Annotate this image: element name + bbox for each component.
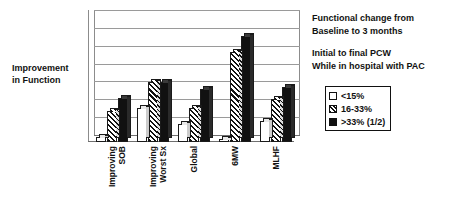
legend-item: <15% (329, 89, 385, 102)
white-square-icon (329, 92, 337, 100)
hatched-square-icon (329, 105, 337, 113)
annotation-1-line-2: Baseline to 3 months (312, 25, 451, 38)
plot-area (88, 10, 303, 145)
legend-item-label: 16-33% (341, 104, 372, 114)
bar-side-face (127, 96, 131, 138)
bar (260, 121, 270, 142)
bar (230, 52, 240, 142)
x-axis-label-line: Worst Sx (159, 146, 169, 204)
legend-item: 16-33% (329, 102, 385, 115)
bar-side-face (269, 119, 273, 138)
bars-layer (88, 10, 303, 145)
bar-side-face (239, 50, 243, 138)
annotation-2-line-1: Initial to final PCW (312, 47, 451, 60)
black-square-icon (329, 118, 337, 126)
bar-side-face (291, 85, 295, 138)
chart-legend: <15%16-33%>33% (1/2) (325, 86, 391, 131)
bar (219, 139, 229, 142)
x-axis-label-line: MLHF (272, 146, 282, 204)
bar-side-face (250, 34, 254, 138)
x-axis-label-line: Global (190, 146, 200, 204)
legend-item-label: >33% (1/2) (341, 117, 385, 127)
bar-group (178, 13, 211, 142)
bar-side-face (168, 80, 172, 138)
bar-side-face (228, 136, 232, 138)
bar-side-face (105, 135, 109, 138)
y-axis-title: Improvement in Function (12, 62, 88, 86)
x-axis-label-4: 6MW (231, 146, 241, 204)
bar-side-face (209, 87, 213, 138)
bar-side-face (187, 122, 191, 138)
y-axis-title-line2: in Function (12, 74, 88, 86)
legend-item: >33% (1/2) (329, 115, 385, 128)
bar (178, 124, 188, 142)
annotation-1-line-1: Functional change from (312, 12, 451, 25)
chart-figure: Improvement in Function ImprovingSOBImpr… (0, 0, 451, 207)
legend-item-label: <15% (341, 91, 364, 101)
bar-side-face (116, 109, 120, 138)
bar-group (137, 13, 170, 142)
annotation-block-2: Initial to final PCW While in hospital w… (312, 47, 451, 72)
x-axis-label-2: ImprovingWorst Sx (149, 146, 168, 204)
x-axis-tick-labels: ImprovingSOBImprovingWorst SxGlobal6MWML… (88, 146, 303, 207)
bar-side-face (280, 97, 284, 138)
bar-side-face (157, 80, 161, 138)
bar-side-face (146, 106, 150, 138)
bar-group (219, 13, 252, 142)
annotation-block-1: Functional change from Baseline to 3 mon… (312, 12, 451, 37)
x-axis-label-3: Global (190, 146, 200, 204)
annotation-text: Functional change from Baseline to 3 mon… (312, 12, 451, 82)
bar (96, 137, 106, 142)
annotation-2-line-2: While in hospital with PAC (312, 60, 451, 73)
bar-side-face (198, 106, 202, 138)
x-axis-label-line: SOB (118, 146, 128, 204)
bar-group (260, 13, 293, 142)
bar-group (96, 13, 129, 142)
x-axis-label-1: ImprovingSOB (108, 146, 127, 204)
x-axis-label-5: MLHF (272, 146, 282, 204)
y-axis-title-line1: Improvement (12, 62, 88, 74)
x-axis-label-line: 6MW (231, 146, 241, 204)
bar (137, 108, 147, 142)
